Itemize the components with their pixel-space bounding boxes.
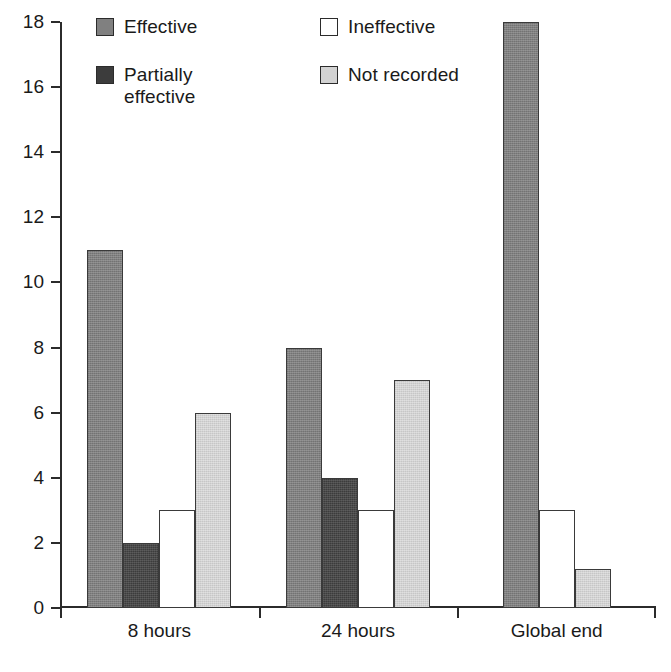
y-axis-tick-label: 10: [23, 271, 44, 293]
x-axis-tick: [259, 608, 261, 618]
y-axis-tick: 0: [51, 607, 60, 609]
y-axis-tick-label: 16: [23, 76, 44, 98]
y-axis-tick-label: 0: [33, 597, 44, 619]
y-axis-tick-label: 8: [33, 337, 44, 359]
bar-not-recorded: [195, 413, 231, 608]
bar-chart: Effective Partially effective Ineffectiv…: [0, 0, 671, 672]
x-axis-tick: [654, 608, 656, 618]
x-axis-group-label: 8 hours: [128, 620, 191, 642]
plot-area: 024681012141618: [60, 22, 656, 608]
x-axis-group-label: 24 hours: [321, 620, 395, 642]
y-axis-tick: 18: [51, 21, 60, 23]
y-axis-tick-label: 6: [33, 402, 44, 424]
bar-effective: [503, 22, 539, 608]
bar-not-recorded: [575, 569, 611, 608]
bar-ineffective: [358, 510, 394, 608]
x-axis-group-label: Global end: [511, 620, 603, 642]
y-axis-line: [60, 22, 62, 608]
y-axis-tick-label: 2: [33, 532, 44, 554]
bar-ineffective: [159, 510, 195, 608]
x-axis-tick: [457, 608, 459, 618]
bar-partially-effective: [322, 478, 358, 608]
bar-partially-effective: [123, 543, 159, 608]
y-axis-tick: 8: [51, 347, 60, 349]
y-axis-tick-label: 4: [33, 467, 44, 489]
y-axis-tick-label: 12: [23, 206, 44, 228]
bar-not-recorded: [394, 380, 430, 608]
bar-effective: [286, 348, 322, 608]
y-axis-tick: 12: [51, 216, 60, 218]
bar-ineffective: [539, 510, 575, 608]
y-axis-tick: 14: [51, 151, 60, 153]
y-axis-tick-label: 14: [23, 141, 44, 163]
y-axis-tick: 16: [51, 86, 60, 88]
y-axis-tick: 6: [51, 412, 60, 414]
x-axis-tick: [60, 608, 62, 618]
y-axis-tick-label: 18: [23, 11, 44, 33]
y-axis-tick: 2: [51, 542, 60, 544]
y-axis-tick: 4: [51, 477, 60, 479]
y-axis-tick: 10: [51, 281, 60, 283]
bar-effective: [87, 250, 123, 608]
